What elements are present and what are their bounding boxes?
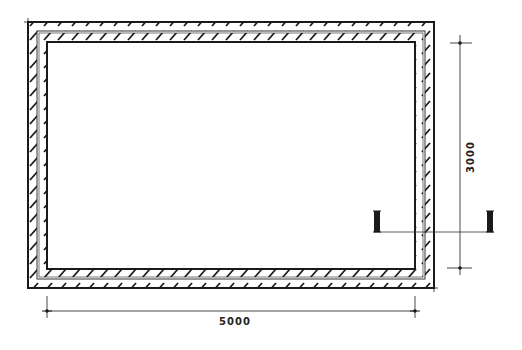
floor-plan-drawing: 5000 3000 (0, 0, 522, 350)
section-marker-right (487, 211, 493, 232)
width-label: 5000 (219, 316, 251, 327)
inner-wall (39, 33, 423, 277)
section-marker-left (374, 211, 380, 232)
dimension-width (42, 296, 420, 318)
height-label: 3000 (465, 141, 476, 173)
